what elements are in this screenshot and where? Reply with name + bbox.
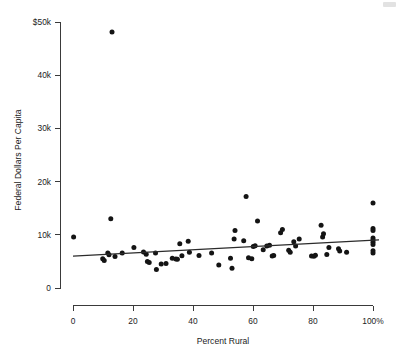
x-tick-label: 100% bbox=[362, 316, 384, 326]
y-tick-label: 30k bbox=[37, 123, 51, 133]
data-point bbox=[326, 245, 331, 250]
plot-canvas: 010k20k30k40k$50k 020406080100% Percent … bbox=[0, 0, 403, 360]
data-point bbox=[175, 257, 180, 262]
data-point bbox=[371, 250, 376, 255]
x-tick-label: 40 bbox=[188, 316, 198, 326]
data-point bbox=[371, 200, 376, 205]
data-point bbox=[154, 267, 159, 272]
data-point bbox=[71, 234, 76, 239]
y-axis-ticks bbox=[55, 22, 61, 288]
x-axis-ticks bbox=[73, 306, 373, 312]
x-tick-label: 0 bbox=[71, 316, 76, 326]
data-point bbox=[297, 237, 302, 242]
y-tick-label: 0 bbox=[46, 283, 51, 293]
data-point bbox=[337, 249, 342, 254]
data-point bbox=[371, 242, 376, 247]
data-point bbox=[209, 250, 214, 255]
y-tick-label: 40k bbox=[37, 70, 51, 80]
data-point bbox=[187, 250, 192, 255]
data-point bbox=[197, 253, 202, 258]
data-point bbox=[131, 245, 136, 250]
data-point bbox=[288, 250, 293, 255]
data-point bbox=[102, 258, 107, 263]
x-tick-label: 80 bbox=[308, 316, 318, 326]
y-tick-label: 10k bbox=[37, 230, 51, 240]
data-point bbox=[179, 253, 184, 258]
data-point bbox=[371, 228, 376, 233]
x-axis: 020406080100% bbox=[71, 306, 385, 327]
data-point bbox=[291, 239, 296, 244]
y-tick-label: $50k bbox=[33, 17, 52, 27]
data-point bbox=[147, 260, 152, 265]
scatter-plot-figure: 010k20k30k40k$50k 020406080100% Percent … bbox=[0, 0, 403, 360]
y-axis-title: Federal Dollars Per Capita bbox=[13, 109, 23, 210]
data-point bbox=[321, 231, 326, 236]
data-point bbox=[164, 261, 169, 266]
data-point bbox=[177, 241, 182, 246]
data-point bbox=[253, 243, 258, 248]
data-point bbox=[233, 228, 238, 233]
data-point bbox=[244, 194, 249, 199]
x-tick-label: 20 bbox=[128, 316, 138, 326]
data-point bbox=[271, 253, 276, 258]
x-axis-title: Percent Rural bbox=[197, 336, 250, 346]
data-point bbox=[241, 238, 246, 243]
y-axis: 010k20k30k40k$50k bbox=[33, 17, 61, 293]
data-point bbox=[113, 254, 118, 259]
data-point bbox=[280, 227, 285, 232]
regression-trend-line bbox=[73, 240, 379, 256]
data-point bbox=[319, 223, 324, 228]
data-point bbox=[186, 239, 191, 244]
trend-line-layer bbox=[73, 240, 379, 256]
data-point bbox=[313, 253, 318, 258]
data-point bbox=[249, 256, 254, 261]
data-point bbox=[159, 262, 164, 267]
y-axis-tick-labels: 010k20k30k40k$50k bbox=[33, 17, 52, 293]
data-point bbox=[232, 237, 237, 242]
data-point bbox=[344, 250, 349, 255]
y-tick-label: 20k bbox=[37, 177, 51, 187]
data-points-layer bbox=[71, 30, 375, 272]
data-point bbox=[255, 218, 260, 223]
page-corner-artifact bbox=[383, 2, 396, 7]
data-point bbox=[110, 30, 115, 35]
data-point bbox=[108, 216, 113, 221]
data-point bbox=[230, 266, 235, 271]
data-point bbox=[261, 247, 266, 252]
data-point bbox=[324, 252, 329, 257]
data-point bbox=[228, 256, 233, 261]
x-axis-tick-labels: 020406080100% bbox=[71, 316, 385, 326]
x-tick-label: 60 bbox=[248, 316, 258, 326]
data-point bbox=[216, 263, 221, 268]
